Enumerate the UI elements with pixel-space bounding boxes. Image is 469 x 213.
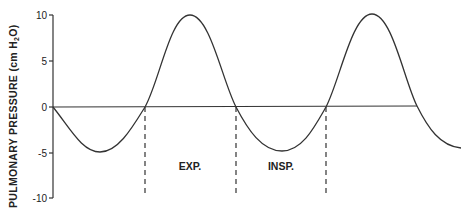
y-tick-label: -5 (38, 148, 47, 159)
annotation-exp: EXP. (179, 160, 202, 172)
y-tick-label: -10 (33, 193, 48, 204)
y-axis-label: PULMONARY PRESSURE (cm H2O) (7, 24, 20, 208)
pressure-curve (53, 14, 461, 152)
phase-dividers (145, 107, 326, 195)
y-tick-label: 5 (41, 56, 47, 67)
y-tick-label: 10 (36, 10, 48, 21)
pressure-chart: 10 5 0 -5 -10 PULMONARY PRESSURE (cm H2O… (0, 0, 469, 213)
y-tick-label: 0 (41, 102, 47, 113)
annotation-insp: INSP. (268, 160, 294, 172)
